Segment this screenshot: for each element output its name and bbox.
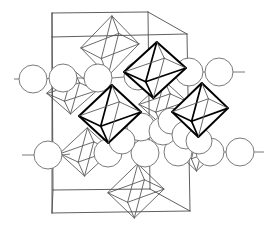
cell-edge-back_top_left-to-back_top_right [52,12,148,13]
crystal-structure-figure [0,0,267,234]
bond-upper-3-4 [112,77,124,78]
sphere-upper-2 [49,64,77,92]
cell-edge-front_bottom_right-to-back_bottom_right [150,189,190,211]
sphere-lower-1 [34,141,62,169]
sphere-lower-6 [226,138,254,166]
cell-edge-front_bottom_right-to-front_bottom_left [52,211,190,213]
cell-edge-front_top_right-to-back_top_right [148,12,187,34]
octahedron-bottom-back [108,164,164,218]
sphere-upper-1 [19,65,47,93]
crystal-structure-canvas [0,0,267,234]
sphere-upper-6 [205,58,233,86]
